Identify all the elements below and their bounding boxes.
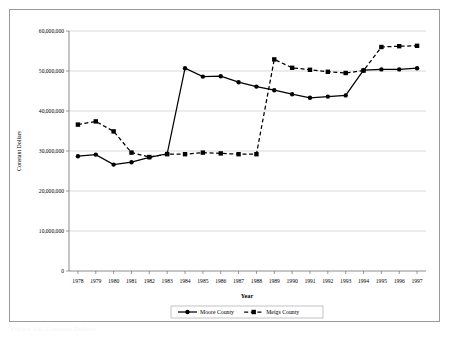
data-point-marker — [76, 154, 80, 158]
data-point-marker — [254, 152, 258, 156]
legend-marker-swatch — [185, 310, 189, 314]
data-point-marker — [219, 74, 223, 78]
data-point-marker — [236, 152, 240, 156]
data-point-marker — [147, 155, 151, 159]
data-point-marker — [129, 150, 133, 154]
data-point-marker — [290, 66, 294, 70]
x-axis-title: Year — [241, 292, 254, 299]
data-point-marker — [183, 152, 187, 156]
data-point-marker — [219, 151, 223, 155]
y-tick-label: 0 — [61, 268, 64, 274]
legend-marker-swatch — [252, 310, 256, 314]
data-point-marker — [343, 71, 347, 75]
data-point-marker — [379, 45, 383, 49]
data-point-marker — [326, 94, 330, 98]
data-point-marker — [326, 70, 330, 74]
data-point-marker — [165, 152, 169, 156]
data-point-marker — [415, 44, 419, 48]
x-tick-label: 1990 — [287, 278, 298, 284]
data-point-marker — [272, 88, 276, 92]
data-point-marker — [201, 150, 205, 154]
y-tick-label: 20,000,000 — [39, 188, 64, 194]
data-point-marker — [94, 152, 98, 156]
figure-root: 010,000,00020,000,00030,000,00040,000,00… — [0, 0, 450, 337]
x-tick-label: 1978 — [72, 278, 83, 284]
x-tick-label: 1991 — [304, 278, 315, 284]
data-point-marker — [361, 68, 365, 72]
chart-frame: 010,000,00020,000,00030,000,00040,000,00… — [9, 9, 440, 322]
x-tick-label: 1986 — [215, 278, 226, 284]
data-point-marker — [254, 84, 258, 88]
data-point-marker — [111, 162, 115, 166]
x-tick-label: 1989 — [269, 278, 280, 284]
x-tick-label: 1993 — [340, 278, 351, 284]
x-tick-label: 1988 — [251, 278, 262, 284]
x-tick-label: 1996 — [394, 278, 405, 284]
data-point-marker — [415, 66, 419, 70]
data-point-marker — [397, 44, 401, 48]
data-point-marker — [111, 129, 115, 133]
legend-label: Moore County — [200, 309, 234, 315]
line-chart: 010,000,00020,000,00030,000,00040,000,00… — [10, 10, 439, 321]
y-axis-title: Constant Dollars — [16, 130, 22, 170]
x-tick-label: 1982 — [144, 278, 155, 284]
x-tick-label: 1992 — [322, 278, 333, 284]
x-tick-label: 1985 — [197, 278, 208, 284]
data-point-marker — [94, 119, 98, 123]
data-point-marker — [308, 68, 312, 72]
y-tick-label: 60,000,000 — [39, 28, 64, 34]
x-tick-label: 1983 — [162, 278, 173, 284]
data-point-marker — [236, 80, 240, 84]
figure-caption: Figure 1.6. Constant Dollars — [11, 325, 96, 333]
x-tick-label: 1980 — [108, 278, 119, 284]
chart-legend[interactable]: Moore CountyMeigs County — [171, 306, 323, 318]
data-point-marker — [308, 96, 312, 100]
y-tick-label: 30,000,000 — [39, 148, 64, 154]
x-tick-label: 1995 — [376, 278, 387, 284]
x-tick-label: 1997 — [411, 278, 422, 284]
data-point-marker — [183, 66, 187, 70]
legend-label: Meigs County — [266, 309, 299, 315]
data-point-marker — [129, 160, 133, 164]
y-tick-label: 40,000,000 — [39, 108, 64, 114]
legend-item-meigs-county[interactable]: Meigs County — [244, 309, 299, 315]
x-tick-label: 1994 — [358, 278, 369, 284]
data-point-marker — [76, 122, 80, 126]
data-point-marker — [201, 74, 205, 78]
x-tick-label: 1984 — [179, 278, 190, 284]
y-tick-label: 50,000,000 — [39, 68, 64, 74]
x-tick-label: 1981 — [126, 278, 137, 284]
data-point-marker — [397, 67, 401, 71]
x-tick-label: 1987 — [233, 278, 244, 284]
y-axis-ticks: 010,000,00020,000,00030,000,00040,000,00… — [39, 28, 69, 274]
data-point-marker — [272, 57, 276, 61]
data-point-marker — [290, 92, 294, 96]
data-point-marker — [343, 93, 347, 97]
y-tick-label: 10,000,000 — [39, 228, 64, 234]
x-axis-ticks: 1978197919801981198219831984198519861987… — [72, 271, 423, 284]
data-point-marker — [379, 67, 383, 71]
x-tick-label: 1979 — [90, 278, 101, 284]
